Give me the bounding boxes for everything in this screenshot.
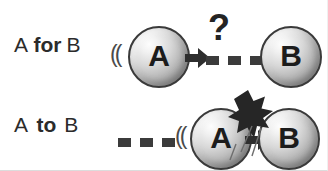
sphere-source-for-label: A bbox=[148, 41, 170, 71]
caption-to: A to B bbox=[14, 108, 79, 142]
impact-star-icon bbox=[228, 86, 288, 168]
dash-segment bbox=[140, 138, 153, 147]
dash-segment bbox=[228, 56, 241, 65]
caption-for-preposition: for bbox=[34, 33, 62, 57]
dash-segment bbox=[162, 138, 175, 147]
dash-segment bbox=[206, 56, 219, 65]
caption-to-preposition: to bbox=[37, 113, 57, 137]
sphere-target-for-label: B bbox=[280, 41, 302, 71]
sphere-source-for: A bbox=[128, 26, 190, 88]
diagram-row-for: A for B (( A ? B bbox=[0, 8, 328, 86]
sphere-target-for: B bbox=[260, 26, 322, 88]
question-mark-icon: ? bbox=[208, 10, 230, 46]
motion-marks-icon: (( bbox=[175, 125, 184, 148]
caption-to-trail: B bbox=[64, 113, 79, 137]
caption-to-lead: A bbox=[14, 113, 29, 137]
caption-for-lead: A bbox=[14, 33, 29, 57]
dash-segment bbox=[118, 138, 131, 147]
caption-for-trail: B bbox=[67, 33, 82, 57]
motion-marks-icon: (( bbox=[110, 43, 119, 66]
dashed-path-to bbox=[118, 138, 175, 147]
diagram-row-to: A to B (( A B bbox=[0, 88, 328, 166]
caption-for: A for B bbox=[14, 28, 81, 62]
diagram-figure: A for B (( A ? B A to B bbox=[0, 0, 328, 171]
dashed-path-for bbox=[206, 56, 263, 65]
